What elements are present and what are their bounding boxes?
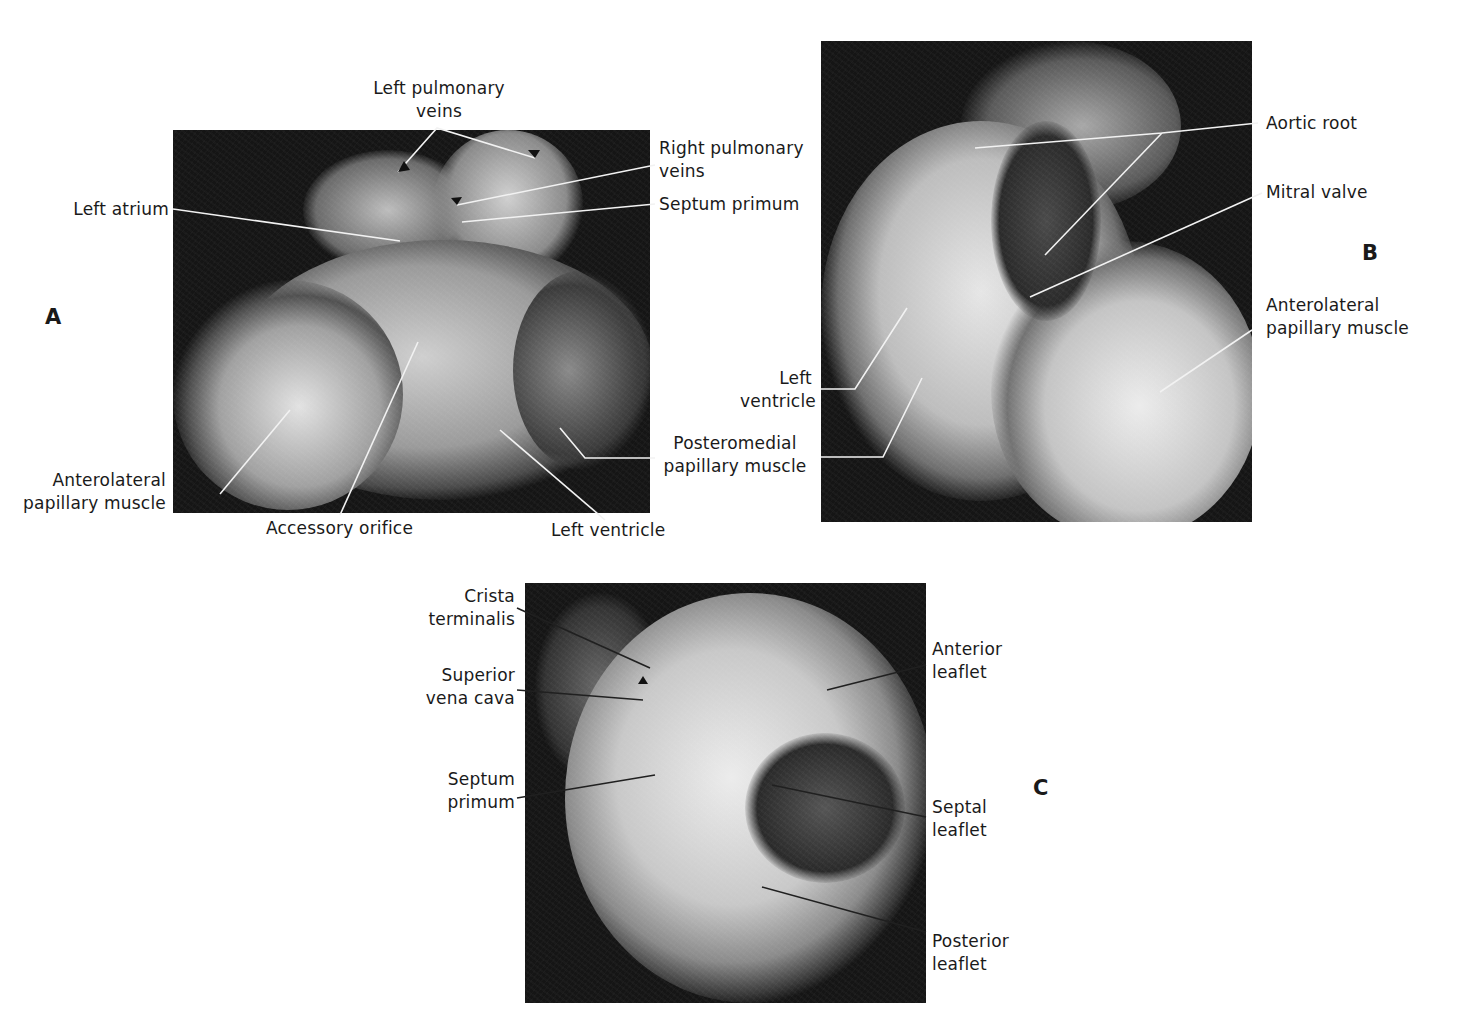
label-aortic-root: Aortic root <box>1266 112 1357 135</box>
panel-label-b: B <box>1362 241 1378 265</box>
label-mitral-valve: Mitral valve <box>1266 181 1368 204</box>
label-accessory-orifice: Accessory orifice <box>266 517 413 540</box>
panel-label-c: C <box>1033 776 1048 800</box>
label-anterolateral-papillary-muscle-a: Anterolateral papillary muscle <box>5 469 166 515</box>
label-septum-primum-a: Septum primum <box>659 193 799 216</box>
label-anterior-leaflet: Anterior leaflet <box>932 638 1002 684</box>
panel-b-photo <box>821 41 1252 522</box>
panel-c-photo <box>525 583 926 1003</box>
label-right-pulmonary-veins: Right pulmonary veins <box>659 137 804 183</box>
panel-label-a: A <box>45 305 61 329</box>
label-septum-primum-c: Septum primum <box>400 768 515 814</box>
label-superior-vena-cava: Superior vena cava <box>400 664 515 710</box>
label-septal-leaflet: Septal leaflet <box>932 796 987 842</box>
label-left-pulmonary-veins: Left pulmonary veins <box>365 77 513 123</box>
label-left-ventricle-b: Left ventricle <box>740 367 812 413</box>
label-anterolateral-papillary-muscle-b: Anterolateral papillary muscle <box>1266 294 1409 340</box>
label-crista-terminalis: Crista terminalis <box>400 585 515 631</box>
label-left-ventricle-a: Left ventricle <box>551 519 665 542</box>
panel-a-photo <box>173 130 650 513</box>
label-posteromedial-papillary-muscle: Posteromedial papillary muscle <box>655 432 815 478</box>
label-posterior-leaflet: Posterior leaflet <box>932 930 1009 976</box>
label-left-atrium: Left atrium <box>40 198 169 221</box>
